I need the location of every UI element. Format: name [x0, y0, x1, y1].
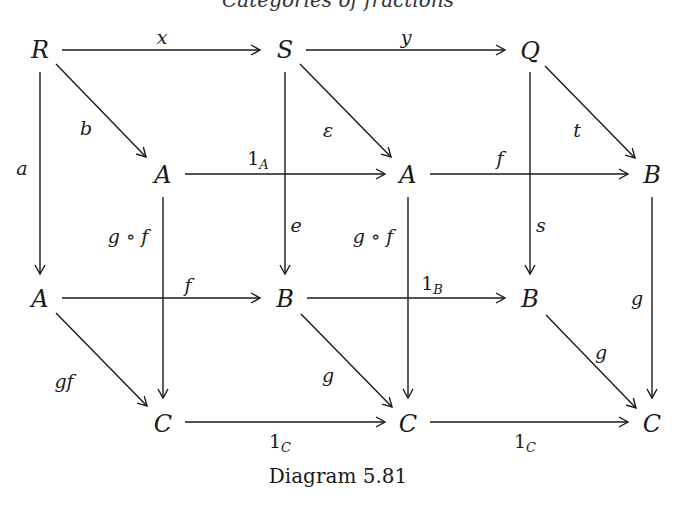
node-B-row2-right: B [643, 163, 661, 187]
label-f-mid: f [184, 276, 191, 295]
node-C-row4-left: C [154, 412, 172, 436]
arrow-eps [300, 64, 391, 157]
arrow-g-mid [301, 314, 392, 407]
arrow-g-diag [546, 315, 636, 408]
node-R: R [31, 38, 49, 62]
label-b: b [80, 119, 92, 138]
label-epsilon: ε [323, 121, 333, 140]
label-gf: gf [54, 372, 73, 391]
label-1C-2-main: 1 [514, 430, 526, 452]
arrow-gf [56, 313, 147, 406]
label-1A: 1A [247, 149, 268, 171]
label-g-compose-f-1: g ∘ f [108, 227, 149, 246]
label-g-right: g [631, 289, 643, 308]
node-A-row3-left: A [31, 287, 48, 311]
label-1C-2-sub: C [526, 440, 536, 455]
node-C-row4-mid: C [399, 412, 417, 436]
label-g-compose-f-2: g ∘ f [353, 227, 394, 246]
label-a: a [16, 159, 27, 178]
label-1C-1-sub: C [281, 440, 291, 455]
node-C-row4-right: C [643, 412, 661, 436]
label-1B-sub: B [433, 282, 443, 297]
label-1C-2: 1C [514, 432, 536, 454]
label-y: y [401, 28, 412, 47]
node-Q: Q [520, 39, 540, 63]
node-A-row2-left: A [154, 163, 171, 187]
arrow-t [545, 66, 635, 158]
label-g-diag: g [595, 343, 607, 362]
label-f-top: f [496, 149, 503, 168]
diagram-arrows [0, 0, 676, 507]
label-e: e [290, 216, 301, 235]
diagram-caption: Diagram 5.81 [0, 464, 676, 488]
node-B-row3-mid: B [276, 287, 294, 311]
node-S: S [277, 38, 293, 62]
label-t: t [573, 121, 581, 140]
label-1B: 1B [421, 274, 443, 296]
node-B-row3-right: B [521, 287, 539, 311]
arrow-b [56, 64, 146, 157]
label-s: s [536, 216, 546, 235]
node-A-row2-mid: A [399, 163, 416, 187]
label-1C-1: 1C [269, 432, 291, 454]
label-x: x [157, 28, 168, 47]
label-1A-main: 1 [247, 147, 259, 169]
label-1B-main: 1 [421, 272, 433, 294]
label-1A-sub: A [259, 157, 268, 172]
label-g-mid: g [322, 366, 334, 385]
label-1C-1-main: 1 [269, 430, 281, 452]
